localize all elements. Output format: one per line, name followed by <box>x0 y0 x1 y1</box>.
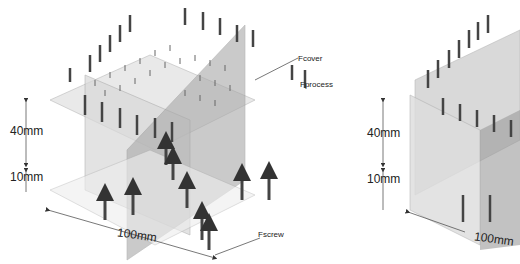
force-label-process: Fprocess <box>300 80 333 89</box>
dim-label-40mm-left: 40mm <box>10 124 43 138</box>
diagram-canvas <box>0 0 520 264</box>
force-label-screw: Fscrew <box>258 230 284 239</box>
left-block <box>50 25 255 260</box>
dim-label-40mm-right: 40mm <box>367 126 400 140</box>
dim-label-10mm-right: 10mm <box>367 172 400 186</box>
right-block <box>410 30 520 250</box>
force-label-cover: Fcover <box>298 54 322 63</box>
dim-label-10mm-left: 10mm <box>10 170 43 184</box>
